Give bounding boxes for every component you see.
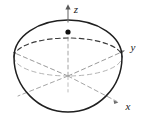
z-axis-label: z <box>73 3 79 15</box>
positive-y-axis-line <box>68 51 124 76</box>
negative-y-axis-line <box>14 53 69 77</box>
hemisphere-diagram: z y x <box>0 0 145 125</box>
figure-container: z y x <box>0 0 145 125</box>
positive-x-axis-line <box>68 76 117 102</box>
negative-x-axis-line <box>18 76 68 96</box>
z-axis-arrowhead <box>65 4 70 9</box>
marked-point <box>65 29 70 34</box>
x-axis-label: x <box>125 100 131 112</box>
y-axis-label: y <box>130 41 136 53</box>
